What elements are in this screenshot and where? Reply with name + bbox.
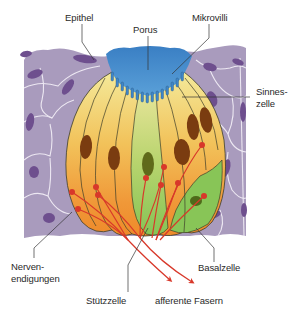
label-stuetzzelle: Stützzelle (86, 295, 126, 306)
label-mikrovilli: Mikrovilli (192, 12, 227, 23)
label-afferente-fasern: afferente Fasern (155, 295, 223, 306)
label-nervenendigungen-line1: Nerven- (11, 261, 44, 272)
label-epithel: Epithel (65, 12, 93, 23)
label-sinneszelle-line2: zelle (256, 98, 275, 109)
taste-bud-diagram (0, 0, 301, 316)
label-basalzelle: Basalzelle (198, 262, 240, 273)
label-nervenendigungen-line2: endigungen (11, 273, 60, 284)
label-sinneszelle-line1: Sinnes- (256, 86, 288, 97)
label-porus: Porus (133, 24, 157, 35)
